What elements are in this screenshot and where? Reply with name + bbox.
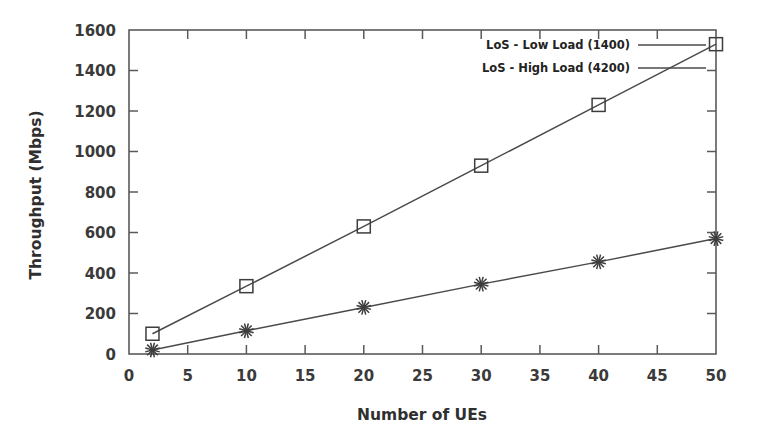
- legend-label: LoS - Low Load (1400): [486, 38, 630, 52]
- legend-label: LoS - High Load (4200): [482, 61, 630, 75]
- x-tick-label: 0: [124, 367, 134, 385]
- y-tick-label: 800: [85, 184, 116, 202]
- y-tick-label: 200: [85, 305, 116, 323]
- x-tick-label: 35: [529, 367, 550, 385]
- y-tick-label: 1000: [74, 143, 116, 161]
- x-tick-label: 20: [353, 367, 374, 385]
- x-tick-label: 25: [412, 367, 433, 385]
- x-tick-label: 30: [471, 367, 492, 385]
- x-tick-label: 40: [588, 367, 609, 385]
- y-tick-label: 400: [85, 265, 116, 283]
- chart-figure: 02004006008001000120014001600 0510152025…: [0, 0, 764, 434]
- x-axis: 05101520253035404550: [124, 30, 727, 385]
- chart-legend: LoS - Low Load (1400)LoS - High Load (42…: [482, 38, 706, 75]
- x-axis-title: Number of UEs: [357, 406, 487, 424]
- y-tick-label: 0: [106, 346, 116, 364]
- throughput-line-chart: 02004006008001000120014001600 0510152025…: [0, 0, 764, 434]
- data-series-group: [145, 38, 723, 358]
- x-tick-label: 5: [182, 367, 192, 385]
- data-series: [146, 38, 723, 341]
- y-tick-label: 1600: [74, 22, 116, 40]
- x-tick-label: 50: [706, 367, 727, 385]
- y-tick-label: 600: [85, 224, 116, 242]
- x-tick-label: 15: [295, 367, 316, 385]
- x-tick-label: 45: [647, 367, 668, 385]
- y-tick-label: 1400: [74, 62, 116, 80]
- y-axis-title: Throughput (Mbps): [27, 110, 45, 279]
- x-tick-label: 10: [236, 367, 257, 385]
- series-polyline: [152, 44, 716, 334]
- y-tick-label: 1200: [74, 103, 116, 121]
- series-polyline: [152, 239, 716, 350]
- plot-frame: [129, 30, 716, 354]
